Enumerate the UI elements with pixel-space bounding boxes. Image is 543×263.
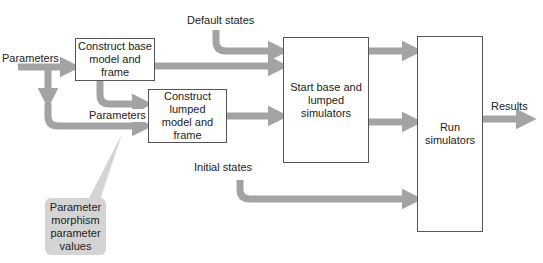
arrow-default-states-to-start: [216, 30, 276, 51]
box-construct-lumped-model: Construct lumped model and frame: [148, 89, 227, 143]
arrow-base-to-lumped: [100, 80, 140, 104]
callout-pointer: [88, 134, 122, 200]
arrow-initial-states-to-run: [240, 180, 410, 199]
flow-diagram: Parameters Parameters Default states Ini…: [0, 0, 543, 263]
label-parameters-lumped: Parameters: [88, 109, 147, 122]
box-construct-base-model: Construct base model and frame: [75, 38, 155, 81]
label-initial-states: Initial states: [194, 161, 252, 174]
label-parameters-input: Parameters: [2, 52, 59, 65]
box-run-simulators: Run simulators: [417, 36, 483, 232]
callout-parameter-morphism: Parameter morphism parameter values: [45, 198, 106, 255]
label-default-states: Default states: [187, 14, 254, 27]
label-results: Results: [491, 100, 528, 113]
box-start-simulators: Start base and lumped simulators: [283, 37, 369, 163]
